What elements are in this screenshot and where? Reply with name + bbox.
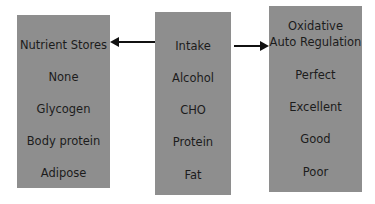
oxidative-title-line2: Auto Regulation <box>269 36 362 49</box>
intake-box: Intake Alcohol CHO Protein Fat <box>155 12 231 195</box>
nutrient-stores-box: Nutrient Stores None Glycogen Body prote… <box>17 15 110 188</box>
intake-item: Protein <box>155 136 231 149</box>
arrow-left-head-icon <box>110 37 119 47</box>
oxidative-item: Poor <box>269 166 362 179</box>
intake-item: Fat <box>155 169 231 182</box>
nutrient-stores-item: None <box>17 71 110 84</box>
oxidative-item: Excellent <box>269 101 362 114</box>
oxidative-regulation-box: Oxidative Auto Regulation Perfect Excell… <box>269 6 362 192</box>
intake-title: Intake <box>155 40 231 53</box>
intake-item: Alcohol <box>155 72 231 85</box>
nutrient-stores-title: Nutrient Stores <box>17 39 110 52</box>
nutrient-stores-item: Glycogen <box>17 103 110 116</box>
oxidative-title-line1: Oxidative <box>269 20 362 33</box>
intake-item: CHO <box>155 104 231 117</box>
oxidative-item: Perfect <box>269 69 362 82</box>
oxidative-item: Good <box>269 133 362 146</box>
arrow-right-head-icon <box>260 41 269 51</box>
nutrient-stores-item: Adipose <box>17 167 110 180</box>
nutrient-stores-item: Body protein <box>17 135 110 148</box>
